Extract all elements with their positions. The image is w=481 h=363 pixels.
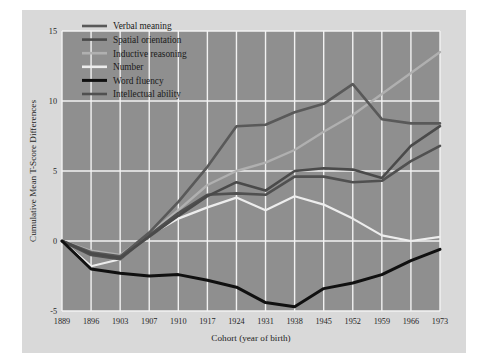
x-tick-label: 1907 bbox=[141, 317, 157, 326]
chart-plot-area: -505101518891896190319071910191719241931… bbox=[22, 10, 466, 353]
line-chart: -505101518891896190319071910191719241931… bbox=[22, 10, 466, 353]
x-tick-label: 1910 bbox=[170, 317, 186, 326]
y-tick-label: 5 bbox=[53, 167, 57, 176]
y-tick-label: -5 bbox=[50, 307, 57, 316]
x-tick-label: 1952 bbox=[345, 317, 361, 326]
x-tick-label: 1896 bbox=[83, 317, 99, 326]
x-axis-ticks: 1889189619031907191019171924193119381945… bbox=[54, 317, 448, 326]
y-tick-label: 15 bbox=[49, 27, 57, 36]
figure-canvas: -505101518891896190319071910191719241931… bbox=[22, 10, 466, 353]
x-tick-label: 1917 bbox=[199, 317, 215, 326]
legend-label-inductive-reasoning: Inductive reasoning bbox=[113, 49, 187, 59]
legend-label-word-fluency: Word fluency bbox=[113, 76, 164, 86]
x-tick-label: 1938 bbox=[286, 317, 302, 326]
x-axis-title: Cohort (year of birth) bbox=[211, 333, 290, 343]
x-tick-label: 1889 bbox=[54, 317, 70, 326]
legend-label-spatial-orientation: Spatial orientation bbox=[113, 35, 182, 45]
x-tick-label: 1959 bbox=[374, 317, 390, 326]
x-tick-label: 1945 bbox=[316, 317, 332, 326]
x-tick-label: 1924 bbox=[228, 317, 244, 326]
x-tick-label: 1966 bbox=[403, 317, 419, 326]
y-tick-label: 0 bbox=[53, 237, 57, 246]
y-tick-label: 10 bbox=[49, 97, 57, 106]
x-tick-label: 1973 bbox=[432, 317, 448, 326]
y-axis-title: Cumulative Mean T-Score Differences bbox=[28, 100, 38, 242]
x-tick-label: 1931 bbox=[257, 317, 273, 326]
legend-label-verbal-meaning: Verbal meaning bbox=[113, 21, 172, 31]
legend-label-number: Number bbox=[113, 62, 144, 72]
x-tick-label: 1903 bbox=[112, 317, 128, 326]
legend-label-intellectual-ability: Intellectual ability bbox=[113, 89, 181, 99]
y-axis-ticks: -5051015 bbox=[49, 27, 57, 316]
